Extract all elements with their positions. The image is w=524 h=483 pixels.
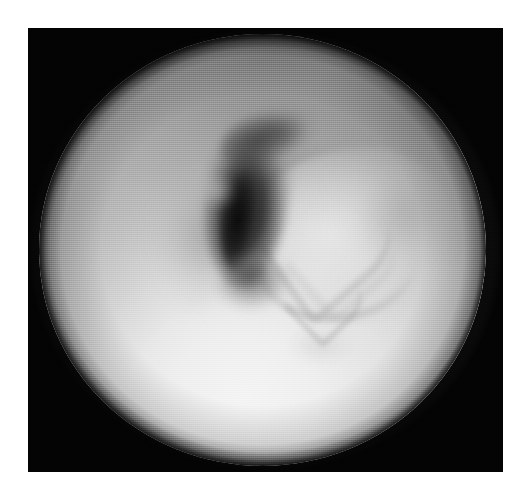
photograph-plate [28, 28, 503, 472]
scope-vignette [39, 34, 486, 466]
endoscopic-field-of-view [39, 34, 486, 466]
